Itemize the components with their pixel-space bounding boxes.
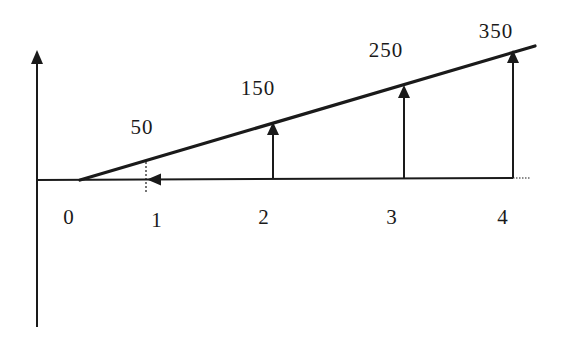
- y-axis: [31, 50, 43, 327]
- period-label-2: 2: [258, 205, 270, 229]
- period-label-1: 1: [151, 208, 163, 232]
- x-axis: [37, 178, 530, 180]
- period-2-arrow: [267, 122, 279, 179]
- period-label-3: 3: [386, 205, 398, 229]
- value-label-350: 350: [479, 19, 514, 43]
- period-label-0: 0: [63, 205, 75, 229]
- y-axis-arrow-icon: [31, 50, 43, 64]
- period-label-4: 4: [497, 205, 509, 229]
- period-4-arrow: [507, 50, 519, 178]
- cash-flow-diagram: 50 150 250 350 0 1 2 3 4: [0, 0, 563, 344]
- period-1-marker: [146, 162, 161, 193]
- growth-line: [80, 46, 535, 180]
- left-arrow-icon: [147, 174, 161, 186]
- period-3-arrow: [398, 85, 410, 178]
- value-label-150: 150: [241, 76, 276, 100]
- value-label-250: 250: [369, 38, 404, 62]
- value-label-50: 50: [131, 115, 154, 139]
